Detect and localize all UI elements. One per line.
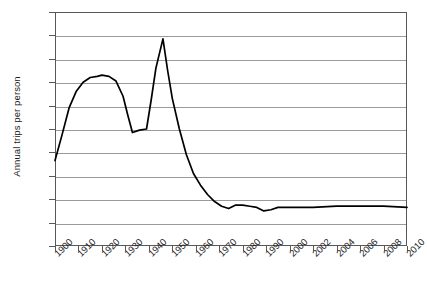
gridline xyxy=(56,60,406,61)
plot-area xyxy=(55,12,407,246)
x-axis-tick-label: 2010 xyxy=(404,236,427,259)
y-axis-title: Annual trips per person xyxy=(11,27,22,227)
gridline xyxy=(56,36,406,37)
gridline xyxy=(56,224,406,225)
gridline xyxy=(56,107,406,108)
gridline xyxy=(56,83,406,84)
gridline xyxy=(56,130,406,131)
gridline xyxy=(56,200,406,201)
gridline xyxy=(56,153,406,154)
gridline xyxy=(56,177,406,178)
